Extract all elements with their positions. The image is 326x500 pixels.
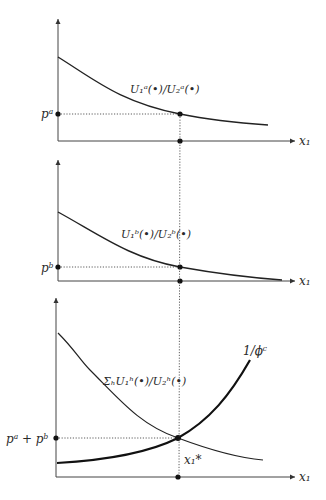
curve-label-a: U₁ᵃ(•)/U₂ᵃ(•): [130, 84, 199, 95]
panel-a: [55, 19, 295, 144]
figure: [0, 0, 326, 500]
curve-sum: [58, 333, 263, 460]
x-label-b: x₁: [299, 275, 311, 287]
point-pa: [55, 111, 60, 116]
curve-label-sum: ΣₕU₁ʰ(•)/U₂ʰ(•): [103, 376, 186, 387]
point-pb: [55, 264, 60, 269]
y-label-pa: pᵃ: [41, 108, 53, 120]
point-curve-b: [177, 264, 182, 269]
y-label-pb: pᵇ: [41, 262, 53, 274]
curve-label-b: U₁ᵇ(•)/U₂ᵇ(•): [121, 229, 191, 240]
y-label-sum: pᵃ + pᵇ: [6, 433, 48, 445]
equilibrium-label: x₁*: [184, 454, 202, 466]
curve-b: [58, 212, 282, 280]
panel-sum: [53, 298, 295, 480]
point-x-star: [175, 474, 180, 479]
curve-label-inv-phi: 1/ϕᶜ: [243, 345, 267, 357]
guide-vertical: [179, 114, 180, 477]
point-equilibrium: [175, 435, 181, 441]
x-label-sum: x₁: [299, 471, 311, 483]
panel-b: [55, 160, 295, 284]
point-sum: [53, 435, 58, 440]
x-label-a: x₁: [299, 135, 311, 147]
point-x-b: [177, 278, 182, 283]
